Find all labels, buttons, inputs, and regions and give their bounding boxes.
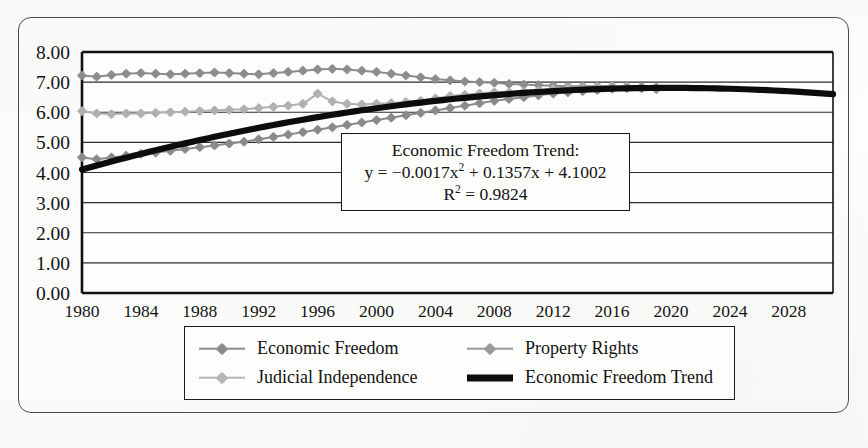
legend-entry[interactable]: Property Rights [467, 338, 724, 359]
legend-swatch-marker [216, 371, 229, 384]
y-tick-label: 3.00 [36, 193, 70, 214]
x-tick-label: 1996 [300, 301, 335, 321]
x-tick-label: 1980 [65, 301, 100, 321]
x-tick-label: 1988 [182, 301, 217, 321]
legend-swatch-diamond-icon [467, 341, 513, 357]
legend-swatch-diamond-icon [199, 370, 245, 386]
x-tick-label: 2024 [712, 301, 747, 321]
legend-swatch-marker [216, 342, 229, 355]
trend-equation-annotation: Economic Freedom Trend: y = −0.0017x2 + … [341, 133, 630, 211]
x-tick-label: 2000 [359, 301, 394, 321]
x-tick-label: 2020 [654, 301, 689, 321]
x-tick-label: 1992 [241, 301, 276, 321]
legend-label: Economic Freedom Trend [525, 367, 713, 388]
screenshot-page: 8.007.006.005.004.003.002.001.000.001980… [0, 0, 868, 448]
legend-entry[interactable]: Economic Freedom [199, 338, 467, 359]
y-tick-label: 2.00 [36, 223, 70, 244]
equation-suffix: + 0.1357x + 4.1002 [464, 162, 606, 182]
legend-entry[interactable]: Judicial Independence [199, 367, 467, 388]
legend-swatch-marker [484, 342, 497, 355]
y-tick-label: 8.00 [36, 42, 70, 63]
legend-swatch-line [467, 374, 513, 381]
y-tick-label: 5.00 [36, 132, 70, 153]
legend-entry[interactable]: Economic Freedom Trend [467, 367, 724, 388]
legend-swatch-diamond-icon [199, 341, 245, 357]
chart-legend: Economic FreedomProperty RightsJudicial … [184, 326, 735, 400]
y-axis-labels: 8.007.006.005.004.003.002.001.000.00 [36, 42, 70, 304]
legend-label: Judicial Independence [257, 367, 417, 388]
x-axis-labels: 1980198419881992199620002004200820122016… [65, 301, 807, 321]
x-tick-label: 2012 [536, 301, 571, 321]
annotation-title: Economic Freedom Trend: [392, 140, 580, 160]
equation-prefix: y = −0.0017x [364, 162, 458, 182]
y-tick-label: 1.00 [36, 253, 70, 274]
legend-label: Property Rights [525, 338, 639, 359]
legend-swatch-none-icon [467, 370, 513, 386]
x-tick-label: 2008 [477, 301, 512, 321]
x-tick-label: 1984 [123, 301, 158, 321]
y-tick-label: 4.00 [36, 163, 70, 184]
annotation-equation: y = −0.0017x2 + 0.1357x + 4.1002 [364, 161, 606, 182]
y-tick-label: 6.00 [36, 102, 70, 123]
r-squared-prefix: R [443, 184, 455, 204]
x-tick-label: 2016 [595, 301, 630, 321]
x-tick-label: 2028 [771, 301, 806, 321]
x-tick-label: 2004 [418, 301, 453, 321]
y-tick-label: 7.00 [36, 72, 70, 93]
annotation-r-squared: R2 = 0.9824 [443, 183, 527, 204]
r-squared-suffix: = 0.9824 [461, 184, 528, 204]
legend-label: Economic Freedom [257, 338, 398, 359]
